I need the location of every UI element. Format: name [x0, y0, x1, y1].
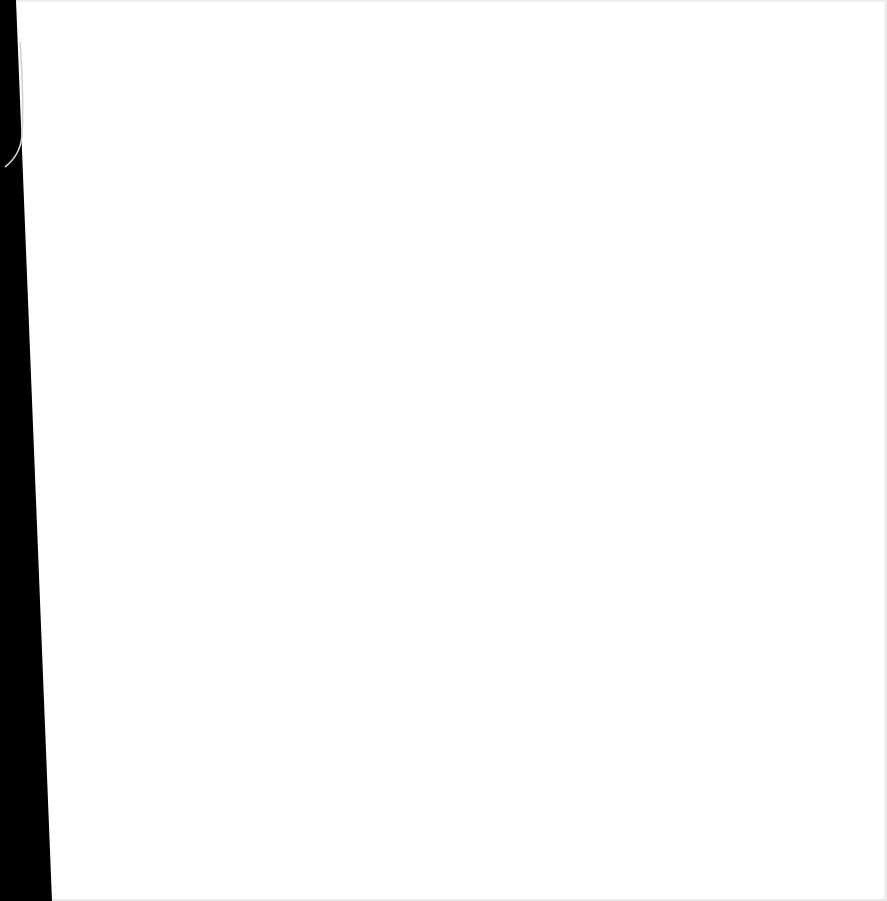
paper-top-edge: [16, 0, 887, 2]
loose-thread: [0, 40, 30, 170]
blank-paper-sheet: [0, 0, 887, 901]
